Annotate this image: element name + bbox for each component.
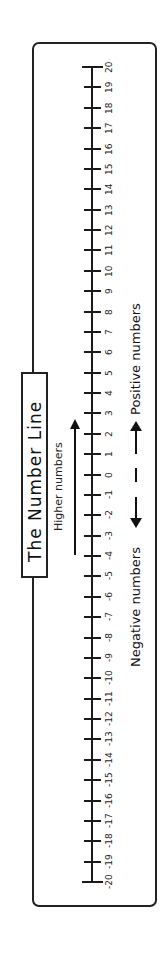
tick-label: 0 xyxy=(104,472,114,478)
tick-label: -13 xyxy=(104,732,114,747)
tick-mark xyxy=(84,596,101,598)
tick-label: -9 xyxy=(104,654,114,663)
tick-mark xyxy=(84,209,101,211)
tick-label: 5 xyxy=(104,370,114,376)
tick-label: 4 xyxy=(104,390,114,396)
tick-mark xyxy=(84,188,101,190)
tick-label: 6 xyxy=(104,349,114,355)
tick-mark xyxy=(84,474,101,476)
tick-label: 13 xyxy=(104,204,114,215)
tick-label: 19 xyxy=(104,81,114,92)
tick-label: 16 xyxy=(104,143,114,154)
tick-label: 3 xyxy=(104,410,114,416)
tick-label: 2 xyxy=(104,431,114,437)
tick-mark xyxy=(84,800,101,802)
tick-mark xyxy=(84,637,101,639)
tick-label: -17 xyxy=(104,814,114,829)
tick-mark xyxy=(84,229,101,231)
tick-mark xyxy=(84,249,101,251)
tick-mark xyxy=(84,372,101,374)
tick-mark xyxy=(84,453,101,455)
tick-mark xyxy=(84,840,101,842)
title-box: The Number Line xyxy=(21,372,48,578)
tick-label: -10 xyxy=(104,671,114,686)
tick-mark xyxy=(84,535,101,537)
tick-label: -6 xyxy=(104,593,114,602)
tick-label: -3 xyxy=(104,532,114,541)
tick-label: 17 xyxy=(104,122,114,133)
tick-label: -7 xyxy=(104,613,114,622)
tick-mark xyxy=(84,392,101,394)
tick-mark xyxy=(84,555,101,557)
tick-label: -14 xyxy=(104,753,114,768)
tick-mark xyxy=(84,107,101,109)
negative-numbers-label: Negative numbers xyxy=(128,547,143,667)
tick-label: 18 xyxy=(104,102,114,113)
tick-label: 15 xyxy=(104,163,114,174)
tick-label: -19 xyxy=(104,855,114,870)
tick-mark xyxy=(84,127,101,129)
tick-label: -8 xyxy=(104,634,114,643)
tick-label: 1 xyxy=(104,451,114,457)
tick-mark xyxy=(82,66,103,68)
tick-mark xyxy=(84,698,101,700)
tick-mark xyxy=(84,718,101,720)
tick-label: -20 xyxy=(104,875,114,890)
page-title: The Number Line xyxy=(25,401,45,562)
tick-label: -2 xyxy=(104,511,114,520)
tick-label: -11 xyxy=(104,692,114,707)
tick-label: -18 xyxy=(104,834,114,849)
tick-mark xyxy=(84,738,101,740)
tick-mark xyxy=(84,759,101,761)
tick-mark xyxy=(84,433,101,435)
tick-label: 10 xyxy=(104,265,114,276)
tick-label: 7 xyxy=(104,329,114,335)
tick-label: 8 xyxy=(104,309,114,315)
tick-label: -15 xyxy=(104,773,114,788)
tick-label: -12 xyxy=(104,712,114,727)
tick-mark xyxy=(84,575,101,577)
tick-label: 9 xyxy=(104,288,114,294)
higher-numbers-label: Higher numbers xyxy=(52,442,65,531)
tick-label: 14 xyxy=(104,183,114,194)
tick-mark xyxy=(84,351,101,353)
tick-mark xyxy=(84,86,101,88)
tick-mark xyxy=(84,657,101,659)
tick-label: 20 xyxy=(104,61,114,72)
tick-mark xyxy=(84,820,101,822)
tick-label: 11 xyxy=(104,244,114,255)
tick-mark xyxy=(84,514,101,516)
tick-label: -16 xyxy=(104,794,114,809)
tick-mark xyxy=(84,168,101,170)
tick-mark xyxy=(84,290,101,292)
positive-numbers-label: Positive numbers xyxy=(128,303,143,415)
tick-mark xyxy=(84,779,101,781)
tick-mark xyxy=(84,270,101,272)
tick-mark xyxy=(82,881,103,883)
tick-label: -1 xyxy=(104,491,114,500)
tick-label: 12 xyxy=(104,224,114,235)
tick-mark xyxy=(84,148,101,150)
tick-mark xyxy=(84,494,101,496)
tick-mark xyxy=(84,331,101,333)
tick-mark xyxy=(84,861,101,863)
tick-mark xyxy=(84,677,101,679)
tick-label: -5 xyxy=(104,572,114,581)
tick-mark xyxy=(84,616,101,618)
tick-label: -4 xyxy=(104,552,114,561)
tick-mark xyxy=(84,311,101,313)
tick-mark xyxy=(84,412,101,414)
center-mark xyxy=(135,468,137,482)
